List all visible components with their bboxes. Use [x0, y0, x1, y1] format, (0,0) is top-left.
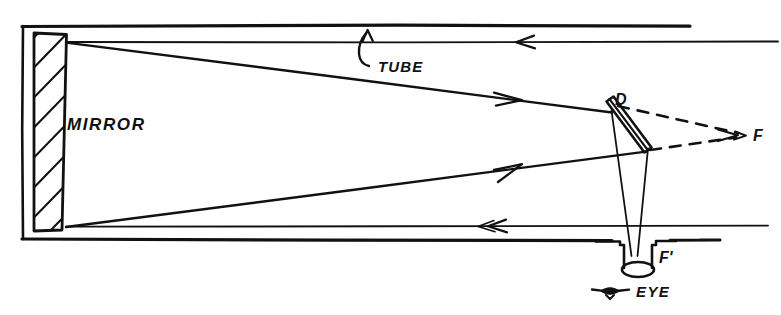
tube-wall-bottom-outer — [22, 239, 612, 241]
focus-eyepiece-label: F' — [659, 249, 674, 266]
reflected-ray-lower — [66, 152, 646, 227]
tube-leader-arrowhead — [362, 30, 372, 42]
tube-end-cap-left — [22, 26, 23, 239]
telescope-diagram-figure: MIRROR TUBE D F F' EYE — [0, 0, 781, 315]
reflected-ray-upper — [66, 43, 612, 113]
eyepiece-barrel-left — [596, 242, 624, 269]
reflected-ray-lower-arrow — [494, 164, 522, 182]
eye-label: EYE — [636, 283, 670, 300]
focus-primary-label: F — [753, 127, 764, 144]
incoming-ray-upper — [66, 42, 778, 43]
tube-label: TUBE — [378, 58, 423, 75]
tube-leader-group — [359, 30, 373, 66]
diagonal-mirror-label: D — [615, 91, 627, 108]
eye-lash-left-icon — [592, 290, 601, 291]
diagram-canvas: MIRROR TUBE D F F' EYE — [0, 0, 781, 315]
eye-lash-right-icon — [619, 290, 629, 291]
incoming-ray-lower — [66, 226, 768, 227]
eye-symbol-group — [592, 287, 629, 299]
eye-lower-lid-icon — [606, 295, 614, 299]
reflected-rays-group — [66, 43, 646, 227]
tube-wall-top-outer — [22, 25, 690, 26]
eyepiece-lens — [622, 262, 654, 277]
mirror-label: MIRROR — [67, 115, 146, 134]
converging-cone-edge-right — [638, 149, 649, 257]
